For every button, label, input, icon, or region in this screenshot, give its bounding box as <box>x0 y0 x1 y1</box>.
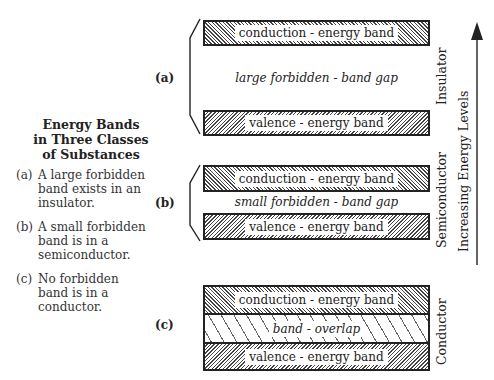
panel-label-a: (a) <box>155 71 174 85</box>
conductor-band-overlap: band - overlap <box>203 313 430 344</box>
band-label: conduction - energy band <box>235 292 398 308</box>
band-label: conduction - energy band <box>235 25 398 41</box>
arrow-up-icon <box>470 20 484 40</box>
panel-label-b: (b) <box>155 196 175 210</box>
band-label: band - overlap <box>269 321 364 337</box>
conductor-conduction-band: conduction - energy band <box>203 285 430 315</box>
semiconductor-valence-band: valence - energy band <box>203 213 430 240</box>
label-semiconductor: Semiconductor <box>434 152 449 248</box>
conductor-valence-band: valence - energy band <box>203 342 430 371</box>
band-label: valence - energy band <box>245 115 387 131</box>
band-label: valence - energy band <box>245 349 387 365</box>
band-label: conduction - energy band <box>235 171 398 187</box>
semiconductor-band-gap: small forbidden - band gap <box>203 195 430 209</box>
label-conductor: Conductor <box>434 298 449 365</box>
label-insulator: Insulator <box>434 48 449 105</box>
insulator-band-gap: large forbidden - band gap <box>203 71 430 85</box>
panel-label-c: (c) <box>155 318 174 332</box>
semiconductor-conduction-band: conduction - energy band <box>203 165 430 192</box>
insulator-valence-band: valence - energy band <box>203 110 430 136</box>
insulator-conduction-band: conduction - energy band <box>203 20 430 46</box>
energy-axis-label: Increasing Energy Levels <box>456 91 471 252</box>
band-label: valence - energy band <box>245 219 387 235</box>
